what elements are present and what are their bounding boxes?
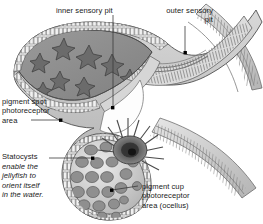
dot-inner-sensory-pit bbox=[111, 106, 114, 109]
dot-outer-sensory-pit bbox=[184, 51, 187, 54]
label-statocysts-description: enable the jellyfish to orient itself in… bbox=[2, 162, 44, 200]
dot-pigment-spot bbox=[59, 119, 62, 122]
label-pigment-cup-photoreceptor-area: pigment cup photoreceptor area (ocellus) bbox=[142, 182, 190, 210]
dot-pigment-cup bbox=[110, 189, 113, 192]
label-inner-sensory-pit: inner sensory pit bbox=[56, 6, 113, 15]
label-outer-sensory-pit: outer sensory pit bbox=[147, 6, 213, 25]
label-pigment-spot-photoreceptor-area: pigment spot photoreceptor area bbox=[2, 97, 50, 125]
label-statocysts: Statocysts bbox=[2, 152, 38, 161]
figure-canvas: inner sensory pit outer sensory pit pigm… bbox=[0, 0, 263, 224]
dot-statocysts bbox=[91, 157, 94, 160]
